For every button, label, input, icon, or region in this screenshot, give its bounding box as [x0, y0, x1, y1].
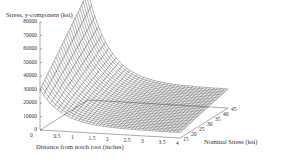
y-tick-label: 20000	[7, 100, 37, 106]
nominal-axis-label: Nominal Stress (ksi)	[204, 139, 257, 146]
nominal-tick-label: 35	[215, 117, 221, 123]
x-tick-label: 2	[106, 137, 109, 143]
x-tick-label: 1	[71, 135, 74, 141]
nominal-tick-label: 30	[207, 122, 213, 128]
x-tick-label: 1.5	[89, 136, 96, 142]
y-tick-label: 70000	[7, 33, 37, 39]
x-tick-label: 2.5	[124, 138, 131, 144]
nominal-tick-label: 20	[191, 132, 197, 138]
nominal-tick-label: 25	[199, 127, 205, 133]
surface-plot	[0, 0, 283, 158]
y-tick-label: 30000	[7, 87, 37, 93]
x-tick-label: 0	[30, 133, 33, 139]
y-tick-label: 50000	[7, 60, 37, 66]
nominal-tick-label: 15	[183, 137, 189, 143]
y-axis-title: Stress, y-component (ksi)	[6, 12, 73, 19]
y-tick-label: 80000	[7, 19, 37, 25]
x-tick-label: 4	[176, 141, 179, 147]
y-tick-label: 10000	[7, 114, 37, 120]
x-tick-label: 3.5	[159, 140, 166, 146]
x-axis-label: Distance from notch root (inches)	[36, 144, 124, 151]
y-tick-label: 40000	[7, 73, 37, 79]
nominal-tick-label: 40	[223, 112, 229, 118]
x-tick-label: 3	[141, 139, 144, 145]
y-tick-label: 60000	[7, 46, 37, 52]
nominal-tick-label: 45	[231, 107, 237, 113]
x-tick-label: 0.5	[54, 134, 61, 140]
